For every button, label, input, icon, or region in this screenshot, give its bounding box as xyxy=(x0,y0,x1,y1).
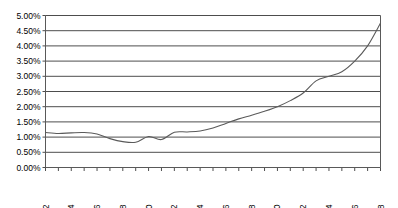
y-axis-tick-label: 0.00% xyxy=(16,163,41,173)
x-axis-tick-label: 2006 xyxy=(350,204,360,208)
y-axis-tick-label: 1.00% xyxy=(16,132,41,142)
y-axis-tick-label: 3.50% xyxy=(16,56,41,66)
y-axis-tick-label: 2.50% xyxy=(16,87,41,97)
x-axis-tick-label: 1998 xyxy=(247,204,257,208)
line-chart: 0.00%0.50%1.00%1.50%2.00%2.50%3.00%3.50%… xyxy=(0,0,398,208)
gridlines xyxy=(46,16,381,168)
y-axis-tick-label: 0.50% xyxy=(16,147,41,157)
y-axis-tick-label: 1.50% xyxy=(16,117,41,127)
x-axis-tick-label: 1992 xyxy=(169,204,179,208)
x-axis-tick-label: 1982 xyxy=(41,204,51,208)
y-axis-tick-label: 5.00% xyxy=(16,11,41,21)
x-axis-tick-label: 2008 xyxy=(376,204,386,208)
x-axis-tick-label: 1990 xyxy=(144,204,154,208)
x-axis-labels: 1982198419861988199019921994199619982000… xyxy=(41,204,386,208)
x-axis-tick-label: 2000 xyxy=(272,204,282,208)
y-axis-tick-label: 4.00% xyxy=(16,41,41,51)
x-axis-tick-label: 1986 xyxy=(92,204,102,208)
y-axis-tick-label: 3.00% xyxy=(16,71,41,81)
x-axis-tick-label: 1996 xyxy=(221,204,231,208)
y-axis-tick-label: 2.00% xyxy=(16,102,41,112)
y-axis-labels: 0.00%0.50%1.00%1.50%2.00%2.50%3.00%3.50%… xyxy=(16,11,41,173)
data-series-line xyxy=(46,23,381,143)
y-axis-tick-label: 4.50% xyxy=(16,26,41,36)
x-axis-tick-label: 1988 xyxy=(118,204,128,208)
x-axis-tick-label: 2002 xyxy=(298,204,308,208)
x-axis-tick-label: 1994 xyxy=(195,204,205,208)
x-axis-tick-label: 1984 xyxy=(66,204,76,208)
x-axis-tick-marks xyxy=(46,168,381,172)
chart-container: 0.00%0.50%1.00%1.50%2.00%2.50%3.00%3.50%… xyxy=(0,0,398,208)
x-axis-tick-label: 2004 xyxy=(324,204,334,208)
